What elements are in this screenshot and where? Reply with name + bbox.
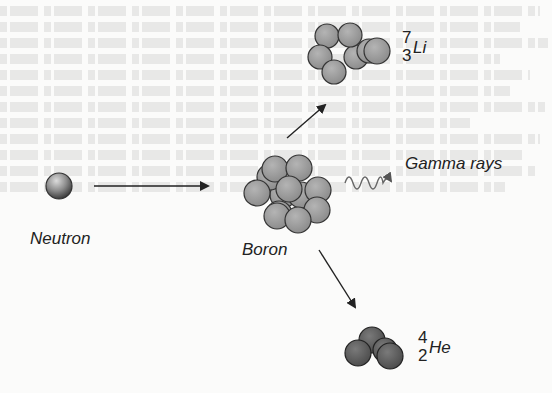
lithium-symbol: Li [413, 38, 426, 58]
gamma-rays-label: Gamma rays [405, 154, 502, 174]
neutron-particle [46, 173, 72, 199]
gamma-wave [345, 177, 391, 189]
helium-atomic-number: 2 [418, 346, 427, 366]
lithium-atomic-number: 3 [402, 46, 411, 66]
lithium-nucleus [308, 23, 390, 84]
helium-mass-number: 4 [418, 328, 427, 348]
arrow-to-helium [319, 250, 355, 307]
helium-nucleus [345, 327, 403, 369]
neutron-label: Neutron [30, 229, 90, 249]
arrow-to-lithium [287, 105, 325, 138]
reaction-diagram [0, 0, 552, 393]
lithium-mass-number: 7 [402, 28, 411, 48]
boron-nucleus [244, 155, 331, 233]
boron-label: Boron [242, 240, 287, 260]
helium-symbol: He [429, 338, 451, 358]
